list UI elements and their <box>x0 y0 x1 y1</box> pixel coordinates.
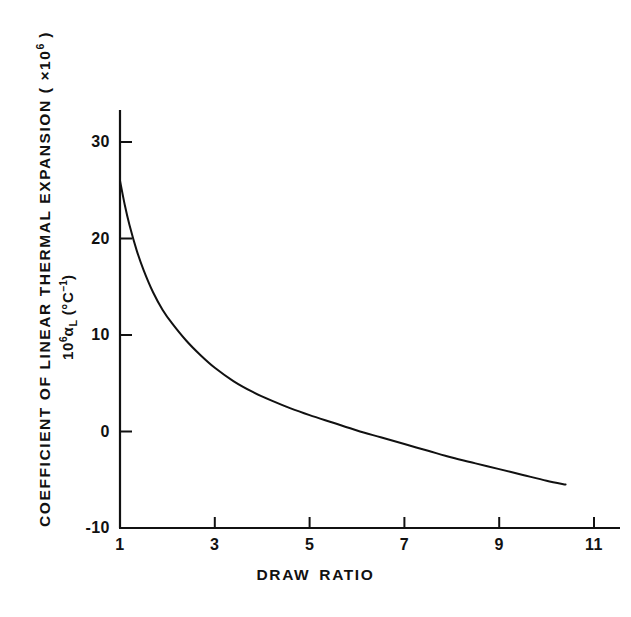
x-axis-label-word-1: DRAW <box>257 566 311 583</box>
page-caption-partial <box>0 600 631 617</box>
x-axis-tick-label: 11 <box>585 536 603 554</box>
y-axis-tick-label: 30 <box>58 133 110 151</box>
x-axis-tick-label: 1 <box>115 536 124 554</box>
y-axis-tick-label: 20 <box>58 230 110 248</box>
y-axis-tick-label: 0 <box>58 423 110 441</box>
data-series-curve <box>120 181 566 485</box>
y-axis-tick-label: 10 <box>58 326 110 344</box>
x-axis-tick-label: 9 <box>494 536 503 554</box>
x-axis-tick-label: 7 <box>400 536 409 554</box>
axis-lines <box>120 110 620 528</box>
x-axis-tick-label: 5 <box>305 536 314 554</box>
y-axis-tick-label: -10 <box>58 519 110 537</box>
x-axis-tick-label: 3 <box>210 536 219 554</box>
x-axis-label-word-2: RATIO <box>319 566 374 583</box>
figure-container: COEFFICIENT OF LINEAR THERMAL EXPANSION … <box>0 0 631 617</box>
x-axis-label: DRAWRATIO <box>0 566 631 584</box>
